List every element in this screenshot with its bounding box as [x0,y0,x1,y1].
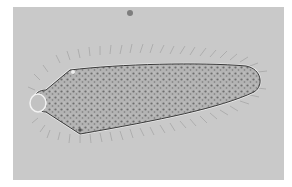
ciliate-organism [0,0,292,187]
granule [71,70,75,74]
cell-body [34,64,260,134]
particle [127,10,133,16]
granule [78,128,82,132]
anterior-knob [30,94,46,112]
